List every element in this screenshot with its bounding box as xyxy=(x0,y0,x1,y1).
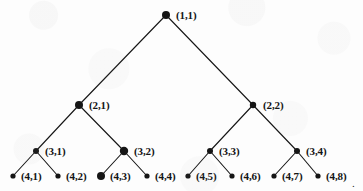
tree-node-label: (1,1) xyxy=(176,10,197,21)
tree-node-dot[interactable] xyxy=(75,101,83,109)
tree-node-label: (2,1) xyxy=(89,100,110,111)
tree-node-label: (3,2) xyxy=(134,146,155,157)
tree-edge xyxy=(253,105,297,151)
tree-node-dot[interactable] xyxy=(250,102,256,108)
tree-node-label: (3,4) xyxy=(306,146,327,157)
tree-canvas xyxy=(0,0,363,191)
tree-node-label: (4,6) xyxy=(240,171,261,182)
tree-node-dot[interactable] xyxy=(120,147,128,155)
tree-node-label: (4,4) xyxy=(155,171,176,182)
tree-node-dot[interactable] xyxy=(10,173,15,178)
tree-node-label: (4,2) xyxy=(66,171,87,182)
trailing-period-mark: . xyxy=(352,178,355,189)
tree-edge xyxy=(79,15,166,105)
tree-node-label: (4,7) xyxy=(282,171,303,182)
tree-node-label: (3,3) xyxy=(219,146,240,157)
tree-node-label: (2,2) xyxy=(263,100,284,111)
tree-node-dot[interactable] xyxy=(55,173,60,178)
binary-tree-figure: (1,1)(2,1)(2,2)(3,1)(3,2)(3,3)(3,4)(4,1)… xyxy=(0,0,363,191)
tree-node-dot[interactable] xyxy=(144,173,149,178)
tree-node-dot[interactable] xyxy=(162,11,170,19)
tree-node-dot[interactable] xyxy=(207,148,213,154)
tree-edge xyxy=(79,105,124,151)
tree-node-label: (3,1) xyxy=(45,146,66,157)
tree-node-dot[interactable] xyxy=(33,148,39,154)
tree-edge xyxy=(166,15,253,105)
tree-node-dot[interactable] xyxy=(315,173,320,178)
tree-node-dot[interactable] xyxy=(294,148,300,154)
tree-node-label: (4,3) xyxy=(110,171,131,182)
tree-node-label: (4,5) xyxy=(196,171,217,182)
tree-node-label: (4,1) xyxy=(21,171,42,182)
tree-node-dot[interactable] xyxy=(229,173,234,178)
tree-node-dot[interactable] xyxy=(271,173,276,178)
tree-node-dot[interactable] xyxy=(97,172,105,180)
tree-node-label: (4,8) xyxy=(326,171,347,182)
tree-node-dot[interactable] xyxy=(185,173,190,178)
